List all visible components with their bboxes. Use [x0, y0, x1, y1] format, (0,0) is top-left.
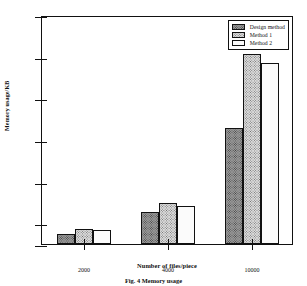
- figure: Memory usage/KB 100020004000600080001000…: [0, 0, 307, 286]
- x-tick-mark-inner: [252, 239, 253, 244]
- y-tick-mark-inner: [42, 225, 47, 226]
- legend-label-method-2: Method 2: [250, 40, 272, 46]
- y-tick-mark-inner: [42, 184, 47, 185]
- legend: Design method Method 1 Method 2: [228, 20, 289, 50]
- plot-area: 1000200040006000800010000120002000400010…: [41, 16, 293, 245]
- bar: [177, 206, 195, 244]
- y-axis-title: Memory usage/KB: [4, 81, 10, 131]
- bar: [57, 234, 75, 244]
- bar: [141, 212, 159, 244]
- y-tick-mark: [35, 225, 42, 226]
- y-tick-mark-inner: [42, 246, 47, 247]
- y-tick-mark-inner: [42, 59, 47, 60]
- legend-item-method-2: Method 2: [232, 39, 285, 47]
- plot-inner: 1000200040006000800010000120002000400010…: [42, 17, 292, 244]
- figure-caption: Fig. 4 Memory usage: [0, 277, 307, 284]
- y-tick-mark-inner: [42, 142, 47, 143]
- y-tick-mark: [35, 100, 42, 101]
- legend-item-design-method: Design method: [232, 23, 285, 31]
- legend-swatch-design-method: [232, 24, 245, 29]
- legend-item-method-1: Method 1: [232, 31, 285, 39]
- bar: [261, 63, 279, 244]
- bar: [225, 128, 243, 244]
- y-tick-mark: [35, 184, 42, 185]
- y-tick-mark: [35, 17, 42, 18]
- bar: [159, 203, 177, 244]
- y-tick-mark: [35, 59, 42, 60]
- y-tick-mark-inner: [42, 100, 47, 101]
- bar: [93, 230, 111, 244]
- bar: [243, 54, 261, 244]
- x-tick-mark-inner: [84, 239, 85, 244]
- y-tick-mark-inner: [42, 17, 47, 18]
- x-tick-mark: [168, 244, 169, 250]
- legend-swatch-method-2: [232, 40, 245, 45]
- x-tick-mark-inner: [168, 239, 169, 244]
- x-tick-mark: [84, 244, 85, 250]
- legend-label-method-1: Method 1: [250, 32, 272, 38]
- y-tick-mark: [35, 246, 42, 247]
- x-axis-title: Number of files/piece: [41, 262, 293, 269]
- x-tick-mark: [252, 244, 253, 250]
- legend-label-design-method: Design method: [250, 24, 285, 30]
- legend-swatch-method-1: [232, 32, 245, 37]
- y-tick-mark: [35, 142, 42, 143]
